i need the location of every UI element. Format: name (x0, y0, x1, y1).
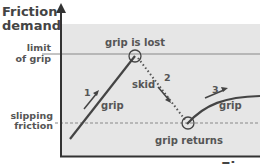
phase-1-label: grip (101, 100, 124, 111)
limit-label-1: limit (27, 42, 52, 53)
y-axis-title-1: Friction (2, 4, 57, 19)
phase-3-number: 3 (212, 84, 219, 95)
slip-label-2: friction (14, 120, 53, 131)
phase-2-label: skid (132, 79, 155, 90)
grip-returns-label: grip returns (155, 135, 223, 146)
figure-caption: Fi (221, 159, 235, 164)
phase-3-label: grip (219, 100, 242, 111)
phase-2-number: 2 (164, 72, 171, 83)
friction-diagram: Friction demand limit of grip slipping f… (0, 0, 260, 164)
y-axis-arrow-icon (56, 3, 66, 13)
grip-lost-label: grip is lost (105, 37, 165, 48)
phase-1-number: 1 (84, 87, 91, 98)
y-axis-title-2: demand (2, 18, 61, 33)
limit-label-2: of grip (15, 53, 51, 64)
